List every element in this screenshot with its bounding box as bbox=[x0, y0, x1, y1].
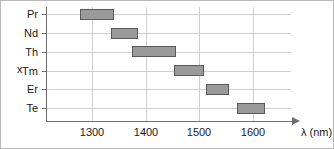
gridline-vertical-1300 bbox=[92, 7, 93, 121]
bar-er bbox=[206, 84, 229, 95]
y-tick-label-nd: Nd bbox=[24, 28, 38, 39]
x-tick-label-1300: 1300 bbox=[80, 127, 104, 138]
gridline-vertical-1500 bbox=[199, 7, 200, 121]
x-tick-label-1400: 1400 bbox=[134, 127, 158, 138]
gridline-horizontal-nd bbox=[46, 33, 291, 34]
bar-tm bbox=[174, 65, 204, 76]
y-tick-label-te: Te bbox=[26, 103, 38, 114]
x-axis-arrow-icon bbox=[292, 117, 300, 125]
y-tick-label-th: Th bbox=[25, 47, 38, 58]
gridline-horizontal-er bbox=[46, 89, 291, 90]
y-tick-th bbox=[42, 52, 46, 53]
y-axis-title: x bbox=[17, 64, 23, 75]
bar-nd bbox=[111, 28, 138, 39]
x-tick-label-1600: 1600 bbox=[241, 127, 265, 138]
y-tick-er bbox=[42, 89, 46, 90]
y-tick-label-tm: Tm bbox=[22, 66, 38, 77]
y-tick-label-er: Er bbox=[27, 84, 38, 95]
x-axis-title: λ (nm) bbox=[301, 127, 332, 138]
chart-figure: Pr Nd Th Tm Er Te 1300 1400 1500 1600 x … bbox=[0, 0, 334, 149]
x-axis-line bbox=[46, 121, 294, 122]
y-axis-line bbox=[46, 7, 47, 121]
bar-te bbox=[237, 103, 265, 114]
x-tick-label-1500: 1500 bbox=[187, 127, 211, 138]
y-tick-tm bbox=[42, 71, 46, 72]
gridline-horizontal-tm bbox=[46, 71, 291, 72]
y-tick-pr bbox=[42, 14, 46, 15]
gridline-vertical-1400 bbox=[146, 7, 147, 121]
bar-pr bbox=[80, 9, 114, 20]
bar-th bbox=[132, 46, 176, 57]
y-tick-te bbox=[42, 108, 46, 109]
y-tick-label-pr: Pr bbox=[27, 9, 38, 20]
y-tick-nd bbox=[42, 33, 46, 34]
